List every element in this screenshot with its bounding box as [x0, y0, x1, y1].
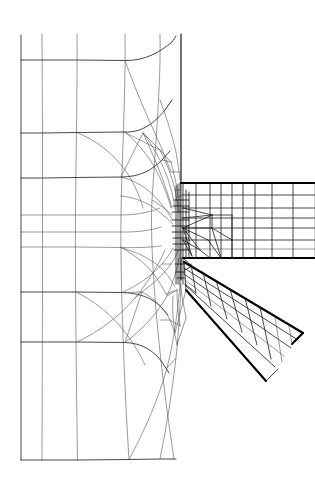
fem-mesh-figure: [0, 0, 315, 479]
figure-background: [0, 0, 315, 479]
mesh-drawing: [0, 0, 315, 479]
